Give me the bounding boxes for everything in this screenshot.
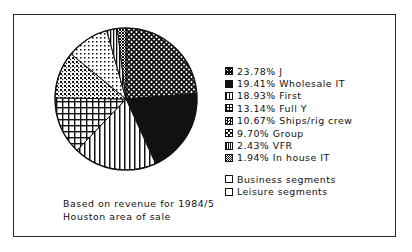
grid-crosshatch-swatch-icon (225, 104, 233, 112)
chart-caption: Based on revenue for 1984/5 Houston area… (63, 198, 214, 223)
caption-line-2: Houston area of sale (63, 211, 214, 224)
legend-label-group: 9.70% Group (237, 128, 304, 139)
legend-label-leisure-segments: Leisure segments (237, 186, 328, 197)
legend-item-full-y: 13.14% Full Y (225, 102, 390, 114)
empty-outline-swatch-icon (225, 188, 233, 196)
legend-label-vfr: 2.43% VFR (237, 140, 293, 151)
pie-slices (55, 28, 197, 170)
pie-slice-j (126, 28, 197, 99)
figure-frame: Based on revenue for 1984/5 Houston area… (13, 14, 396, 237)
legend-item-wholesale-it: 19.41% Wholesale IT (225, 77, 390, 89)
legend-label-j: 23.78% J (237, 66, 283, 77)
legend-item-group: 9.70% Group (225, 127, 390, 139)
empty-outline-swatch-icon (225, 175, 233, 183)
legend-label-ships-rig-crew: 10.67% Ships/rig crew (237, 115, 352, 126)
legend-item-in-house-it: 1.94% In house IT (225, 152, 390, 164)
solid-black-swatch-icon (225, 80, 233, 88)
legend-label-full-y: 13.14% Full Y (237, 103, 307, 114)
caption-line-1: Based on revenue for 1984/5 (63, 198, 214, 211)
legend-label-wholesale-it: 19.41% Wholesale IT (237, 78, 345, 89)
dense-speckle-swatch-icon (225, 154, 233, 162)
pie-chart-svg (44, 17, 204, 189)
vertical-lines-swatch-icon (225, 92, 233, 100)
legend-separator (225, 164, 390, 173)
legend-item-vfr: 2.43% VFR (225, 139, 390, 151)
legend-item-j: 23.78% J (225, 65, 390, 77)
legend-label-business-segments: Business segments (237, 174, 336, 185)
pie-chart-area (44, 17, 204, 189)
legend-item-first: 18.93% First (225, 90, 390, 102)
legend-label-in-house-it: 1.94% In house IT (237, 152, 330, 163)
chart-legend: 23.78% J 19.41% Wholesale IT 18.93% Firs… (225, 65, 390, 198)
light-dots-swatch-icon (225, 129, 233, 137)
diagonal-crosshatch-dense-swatch-icon (225, 67, 233, 75)
medium-dots-swatch-icon (225, 117, 233, 125)
legend-item-ships-rig-crew: 10.67% Ships/rig crew (225, 115, 390, 127)
thin-vertical-lines-swatch-icon (225, 142, 233, 150)
legend-item-leisure-segments: Leisure segments (225, 186, 390, 198)
legend-label-first: 18.93% First (237, 90, 301, 101)
legend-item-business-segments: Business segments (225, 173, 390, 185)
